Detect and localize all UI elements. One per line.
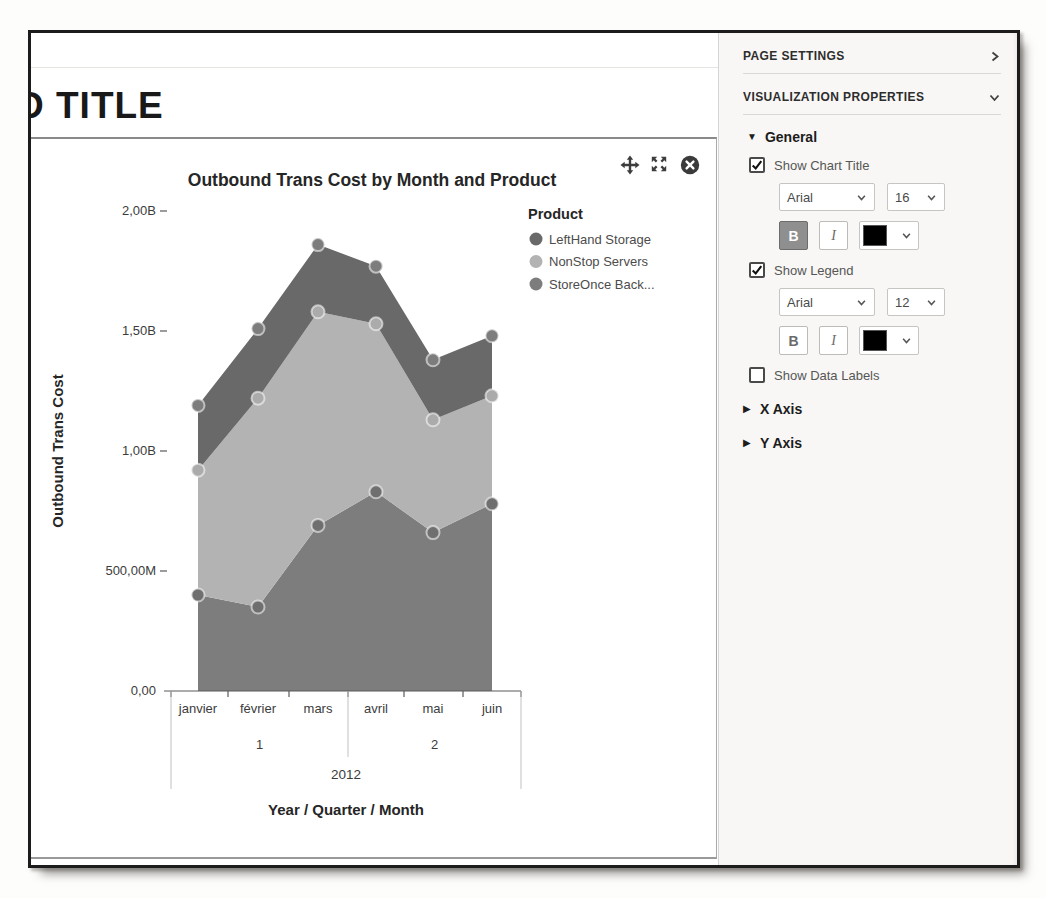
svg-text:juin: juin — [481, 701, 502, 716]
section-general[interactable]: ▼ General — [747, 129, 1001, 145]
legend-font-family-value: Arial — [787, 295, 813, 310]
svg-text:1: 1 — [256, 737, 263, 752]
legend-bold-button[interactable]: B — [779, 326, 808, 355]
divider — [743, 73, 1001, 74]
x-axis-section-label: X Axis — [760, 401, 802, 417]
svg-text:1,50B: 1,50B — [122, 323, 156, 338]
triangle-right-icon: ▶ — [743, 438, 751, 448]
visualization-properties-header[interactable]: VISUALIZATION PROPERTIES — [743, 84, 1001, 110]
properties-panel: PAGE SETTINGS VISUALIZATION PROPERTIES ▼… — [718, 33, 1019, 865]
visualization-properties-label: VISUALIZATION PROPERTIES — [743, 90, 924, 104]
close-icon[interactable] — [680, 155, 700, 175]
color-swatch — [863, 330, 887, 351]
svg-text:0,00: 0,00 — [131, 683, 156, 698]
stacked-area-chart: 2,00B1,50B1,00B500,00M0,00janvierfévrier… — [31, 139, 717, 857]
data-point-marker[interactable] — [370, 317, 383, 330]
page-settings-header[interactable]: PAGE SETTINGS — [743, 43, 1001, 69]
legend-dot — [530, 278, 543, 291]
data-point-marker[interactable] — [427, 353, 440, 366]
legend-dot — [530, 255, 543, 268]
data-point-marker[interactable] — [312, 238, 325, 251]
svg-text:mars: mars — [304, 701, 333, 716]
data-point-marker[interactable] — [252, 601, 265, 614]
svg-text:1,00B: 1,00B — [122, 443, 156, 458]
chevron-right-icon — [988, 50, 1001, 63]
app-window: D TITLE 2,00B1,50B1,00B500,00M0,00janvie… — [28, 30, 1020, 868]
data-point-marker[interactable] — [252, 392, 265, 405]
legend-font-size-value: 12 — [895, 295, 909, 310]
divider — [743, 114, 1001, 115]
svg-text:mai: mai — [423, 701, 444, 716]
legend-color-select[interactable] — [859, 326, 919, 355]
chart-title-style-row: B I — [779, 221, 1001, 250]
show-chart-title-checkbox[interactable] — [749, 157, 765, 173]
data-point-marker[interactable] — [486, 389, 499, 402]
chart-title-bold-button[interactable]: B — [779, 221, 808, 250]
section-x-axis[interactable]: ▶ X Axis — [743, 401, 1001, 417]
show-chart-title-label: Show Chart Title — [774, 158, 869, 173]
color-swatch — [863, 225, 887, 246]
chart-title-font-size-select[interactable]: 16 — [887, 183, 945, 211]
show-data-labels-row: Show Data Labels — [749, 367, 1001, 383]
chevron-down-icon — [926, 192, 937, 203]
data-point-marker[interactable] — [192, 464, 205, 477]
legend-dot — [530, 233, 543, 246]
chart-title-color-select[interactable] — [859, 221, 919, 250]
legend-italic-button[interactable]: I — [819, 326, 848, 355]
svg-text:Outbound Trans Cost by Month a: Outbound Trans Cost by Month and Product — [188, 170, 557, 190]
data-point-marker[interactable] — [192, 399, 205, 412]
legend-font-size-select[interactable]: 12 — [887, 288, 945, 316]
data-point-marker[interactable] — [427, 413, 440, 426]
data-point-marker[interactable] — [252, 322, 265, 335]
svg-text:Outbound Trans Cost: Outbound Trans Cost — [49, 374, 66, 527]
show-legend-checkbox[interactable] — [749, 262, 765, 278]
chart-title-font-family-select[interactable]: Arial — [779, 183, 875, 211]
data-point-marker[interactable] — [312, 305, 325, 318]
show-data-labels-checkbox[interactable] — [749, 367, 765, 383]
show-data-labels-label: Show Data Labels — [774, 368, 880, 383]
data-point-marker[interactable] — [312, 519, 325, 532]
maximize-icon[interactable] — [650, 155, 670, 175]
svg-text:500,00M: 500,00M — [105, 563, 156, 578]
chevron-down-icon — [901, 335, 912, 346]
data-point-marker[interactable] — [486, 497, 499, 510]
data-point-marker[interactable] — [370, 485, 383, 498]
data-point-marker[interactable] — [486, 329, 499, 342]
canvas-area: D TITLE 2,00B1,50B1,00B500,00M0,00janvie… — [31, 33, 718, 865]
svg-text:2012: 2012 — [331, 767, 361, 782]
chevron-down-icon — [856, 297, 867, 308]
move-icon[interactable] — [620, 155, 640, 175]
y-axis-section-label: Y Axis — [760, 435, 802, 451]
legend-item-label[interactable]: StoreOnce Back... — [549, 277, 655, 292]
show-chart-title-row: Show Chart Title — [749, 157, 1001, 173]
triangle-right-icon: ▶ — [743, 404, 751, 414]
page-settings-label: PAGE SETTINGS — [743, 49, 845, 63]
legend-item-label[interactable]: LeftHand Storage — [549, 232, 651, 247]
triangle-down-icon: ▼ — [747, 132, 757, 142]
chart-title-font-row: Arial 16 — [779, 183, 1001, 211]
svg-text:avril: avril — [364, 701, 388, 716]
svg-text:Year / Quarter / Month: Year / Quarter / Month — [268, 801, 424, 818]
chart-title-font-family-value: Arial — [787, 190, 813, 205]
chevron-down-icon — [901, 230, 912, 241]
chart-title-italic-button[interactable]: I — [819, 221, 848, 250]
svg-text:janvier: janvier — [178, 701, 218, 716]
toolbar-divider — [31, 67, 718, 68]
show-legend-label: Show Legend — [774, 263, 854, 278]
section-y-axis[interactable]: ▶ Y Axis — [743, 435, 1001, 451]
svg-text:février: février — [240, 701, 277, 716]
legend-font-row: Arial 12 — [779, 288, 1001, 316]
legend-item-label[interactable]: NonStop Servers — [549, 254, 648, 269]
data-point-marker[interactable] — [427, 526, 440, 539]
svg-text:Product: Product — [528, 206, 583, 222]
data-point-marker[interactable] — [192, 589, 205, 602]
svg-text:2: 2 — [431, 737, 438, 752]
chevron-down-icon — [856, 192, 867, 203]
legend-font-family-select[interactable]: Arial — [779, 288, 875, 316]
widget-controls — [620, 155, 700, 175]
chart-widget[interactable]: 2,00B1,50B1,00B500,00M0,00janvierfévrier… — [31, 137, 717, 859]
data-point-marker[interactable] — [370, 260, 383, 273]
chart-title-font-size-value: 16 — [895, 190, 909, 205]
chevron-down-icon — [988, 91, 1001, 104]
legend-style-row: B I — [779, 326, 1001, 355]
